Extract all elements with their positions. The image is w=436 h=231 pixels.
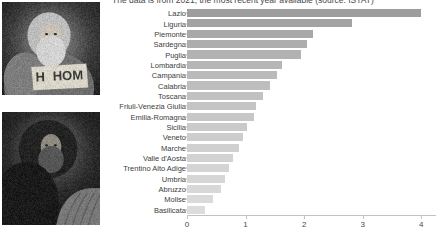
bar-row: Piemonte [110,29,436,39]
y-axis-label: Friuli-Venezia Giulia [119,102,186,111]
bar-row: Molise [110,194,436,204]
bar-row: Veneto [110,132,436,142]
bar-row: Lazio [110,8,436,18]
bar-veneto [187,133,243,141]
y-axis-label: Valle d'Aosta [143,154,186,163]
y-axis-label: Abruzzo [158,185,186,194]
bar-row: Liguria [110,18,436,28]
y-axis-label: Trentino Alto Adige [123,164,186,173]
bar-row: Umbria [110,174,436,184]
bar-chart: LazioLiguriaPiemonteSardegnaPugliaLombar… [110,8,436,231]
bar-row: Lombardia [110,60,436,70]
photo-hooded-bearded-figure [2,112,100,225]
bar-piemonte [187,30,313,38]
y-axis-label: Calabria [158,81,186,90]
bar-lombardia [187,61,282,69]
bar-sicilia [187,123,247,131]
bar-row: Calabria [110,80,436,90]
bar-valle-d-aosta [187,154,233,162]
x-axis-tick [304,215,305,219]
bar-row: Puglia [110,49,436,59]
bar-calabria [187,81,270,89]
chart-page: The data is from 2021, the most recent y… [0,0,436,231]
bar-molise [187,195,213,203]
photo-column [0,0,108,231]
x-axis-line [187,215,436,216]
bar-campania [187,71,277,79]
y-axis-label: Piemonte [154,29,186,38]
bar-row: Basilicata [110,205,436,215]
plot-area: LazioLiguriaPiemonteSardegnaPugliaLombar… [110,8,436,215]
bar-basilicata [187,206,205,214]
y-axis-label: Campania [152,71,186,80]
x-axis-tick-label: 0 [185,220,189,229]
y-axis-label: Umbria [162,174,186,183]
x-axis-tick-label: 3 [361,220,365,229]
bar-row: Abruzzo [110,184,436,194]
x-axis-tick [421,215,422,219]
bar-umbria [187,175,225,183]
bar-row: Friuli-Venezia Giulia [110,101,436,111]
y-axis-label: Marche [161,143,186,152]
y-axis-label: Puglia [165,50,186,59]
bar-row: Trentino Alto Adige [110,163,436,173]
bar-toscana [187,92,263,100]
bar-sardegna [187,40,307,48]
bar-trentino-alto-adige [187,164,229,172]
y-axis-label: Basilicata [154,205,186,214]
x-axis-tick-label: 1 [243,220,247,229]
bar-marche [187,144,239,152]
bar-liguria [187,19,352,27]
bar-row: Sicilia [110,122,436,132]
bar-row: Toscana [110,91,436,101]
x-axis-tick-label: 2 [302,220,306,229]
x-axis-tick [187,215,188,219]
bar-row: Sardegna [110,39,436,49]
x-axis-tick [363,215,364,219]
chart-caption: The data is from 2021, the most recent y… [112,0,434,5]
y-axis-label: Veneto [163,133,186,142]
x-axis-tick-label: 4 [419,220,423,229]
y-axis-label: Molise [164,195,186,204]
bar-puglia [187,50,301,58]
y-axis-label: Sardegna [153,40,186,49]
y-axis-label: Lombardia [151,60,186,69]
bar-row: Campania [110,70,436,80]
y-axis-label: Liguria [163,19,186,28]
bar-row: Emilia-Romagna [110,112,436,122]
bar-emilia-romagna [187,113,254,121]
bar-abruzzo [187,185,221,193]
photo-bearded-man-with-sign [2,2,100,95]
bar-lazio [187,9,421,17]
bar-row: Marche [110,143,436,153]
y-axis-label: Emilia-Romagna [131,112,186,121]
bar-row: Valle d'Aosta [110,153,436,163]
x-axis-tick [246,215,247,219]
y-axis-label: Toscana [158,91,186,100]
bar-friuli-venezia-giulia [187,102,256,110]
